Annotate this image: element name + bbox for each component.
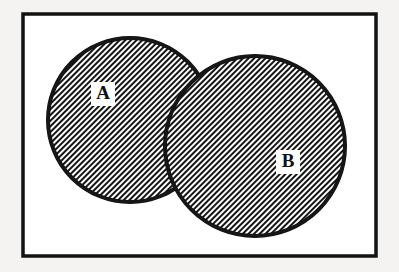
venn-diagram-canvas: A B (0, 0, 399, 272)
venn-figure: A B (0, 0, 399, 272)
set-b-label-group: B (276, 150, 300, 174)
set-a-label: A (96, 82, 110, 103)
set-b-label: B (282, 150, 295, 171)
set-a-label-group: A (91, 82, 115, 106)
set-b-circle (165, 56, 345, 236)
